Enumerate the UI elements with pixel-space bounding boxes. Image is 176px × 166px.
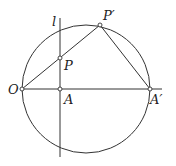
point-P-prime [98,23,102,27]
label-l: l [52,14,56,29]
label-A-prime: A′ [149,92,162,107]
label-O: O [8,82,19,97]
label-P-prime: P′ [102,8,115,23]
point-A-prime [148,87,152,91]
label-P: P [63,58,73,73]
label-A: A [63,92,73,107]
segment-P-prime-A-prime [100,25,150,89]
point-O [20,87,24,91]
point-P [58,56,62,60]
geometry-diagram: l P′ P O A A′ [0,0,176,166]
point-A [58,87,62,91]
